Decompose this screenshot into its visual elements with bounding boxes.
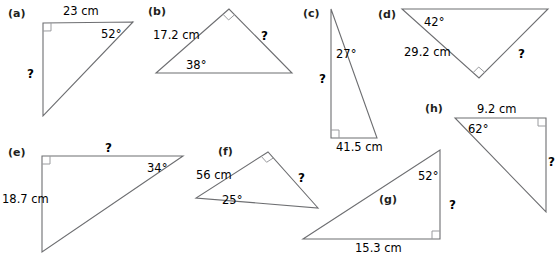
figure-label-c: (c) [303,8,320,19]
angle-left: 25° [222,195,242,207]
unknown-right-side: ? [518,48,525,60]
side-bottom: 41.5 cm [336,142,383,154]
worksheet-figure-sheet: (a)23 cm52°?(b)17.2 cm38°?(c)27°?41.5 cm… [0,0,556,256]
figure-label-f: (f) [218,146,233,157]
right-angle-marker [432,231,440,239]
figure-label-d: (d) [378,9,396,20]
triangle-g [303,150,440,239]
figure-label-e: (e) [8,147,26,158]
unknown-top-side: ? [105,142,112,154]
side-top: 9.2 cm [477,104,516,116]
right-angle-marker [223,14,235,20]
unknown-left-side: ? [319,73,326,85]
side-bottom: 15.3 cm [355,243,402,255]
figure-label-h: (h) [425,103,443,114]
angle-left: 38° [186,60,206,72]
unknown-right-side: ? [548,156,555,168]
right-angle-marker [43,23,51,31]
right-angle-marker [538,118,546,126]
angle-top-right: 52° [418,171,438,183]
right-angle-marker [261,156,273,162]
triangle-outline [303,150,440,239]
side-left: 18.7 cm [2,194,49,206]
angle-top-left: 62° [468,124,488,136]
figure-label-a: (a) [8,8,25,19]
angle-top-right: 52° [101,29,121,41]
unknown-right-side: ? [298,172,305,184]
side-upper-left: 56 cm [196,170,232,182]
triangle-c [331,9,377,138]
right-angle-marker [473,67,485,73]
angle-top-right: 34° [147,163,167,175]
side-top: 23 cm [63,6,99,18]
right-angle-marker [42,156,50,164]
unknown-right-side: ? [449,199,456,211]
figure-label-g: (g) [379,194,397,205]
right-angle-marker [331,130,339,138]
figure-label-b: (b) [148,6,166,17]
side-left: 29.2 cm [404,47,451,59]
angle-top-left: 42° [424,17,444,29]
triangle-outline [331,9,377,138]
angle-top: 27° [336,49,356,61]
side-upper-left: 17.2 cm [153,30,200,42]
unknown-upper-right-side: ? [261,30,268,42]
unknown-left-side: ? [27,68,34,80]
